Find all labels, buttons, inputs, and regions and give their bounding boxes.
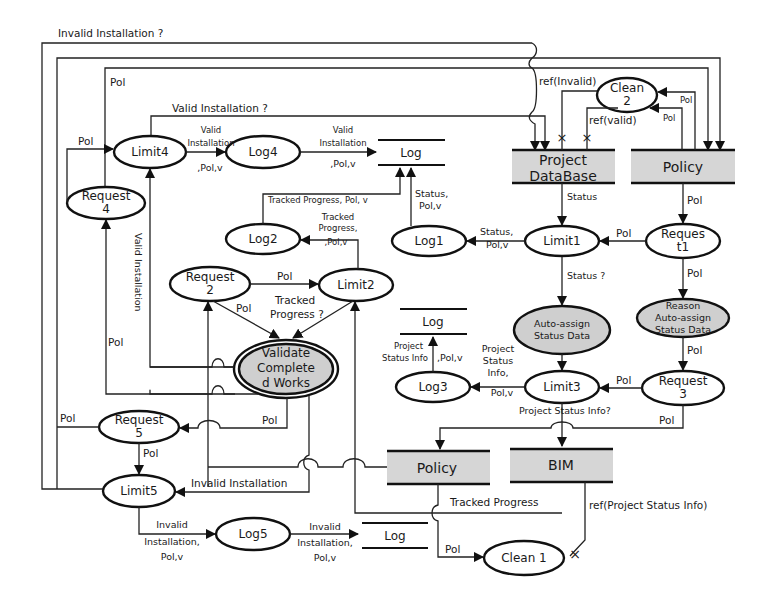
svg-text:Reason: Reason	[666, 300, 701, 311]
inhibitor-x-icon: ×	[569, 546, 581, 562]
svg-text:Request: Request	[115, 413, 164, 427]
store-policy-top[interactable]: Policy	[631, 150, 735, 183]
svg-text:Pol: Pol	[445, 543, 460, 555]
node-clean2[interactable]: Clean 2	[597, 78, 657, 112]
svg-text:Status: Status	[567, 191, 597, 202]
edge-label-pol: Pol	[78, 135, 93, 147]
store-log-mid[interactable]: Log	[400, 309, 467, 334]
svg-text:Limit2: Limit2	[337, 278, 374, 292]
svg-text:Installation,: Installation,	[297, 537, 353, 548]
svg-text:Pol: Pol	[60, 412, 75, 424]
svg-text:Pol,v: Pol,v	[314, 552, 337, 563]
svg-text:d Works: d Works	[262, 376, 310, 390]
svg-text:Status,: Status,	[480, 226, 513, 237]
edge-label-pol: Pol	[680, 95, 692, 105]
node-limit1[interactable]: Limit1	[525, 226, 599, 256]
node-limit2[interactable]: Limit2	[319, 269, 393, 301]
edge-label-valid-installation-q: Valid Installation ?	[172, 102, 268, 114]
edge-ref-project-status-info	[570, 482, 585, 556]
svg-text:Status ?: Status ?	[567, 270, 605, 281]
svg-text:Clean: Clean	[610, 81, 644, 95]
svg-text:Validate: Validate	[262, 346, 310, 360]
svg-text:Pol: Pol	[687, 194, 702, 206]
svg-text:2: 2	[623, 94, 631, 108]
svg-text:Auto-assign: Auto-assign	[534, 318, 590, 329]
inhibitor-x-icon: ×	[557, 130, 568, 145]
svg-text:Limit1: Limit1	[543, 234, 580, 248]
edge-label-pol: Pol	[108, 336, 123, 348]
svg-text:Log: Log	[384, 529, 405, 543]
svg-text:Pol: Pol	[262, 414, 277, 426]
node-clean1[interactable]: Clean 1	[484, 541, 564, 575]
svg-text:Request: Request	[659, 374, 708, 388]
svg-text:,Pol,v: ,Pol,v	[437, 352, 463, 363]
svg-text:Log4: Log4	[248, 145, 277, 159]
svg-text:Pol: Pol	[616, 227, 631, 239]
svg-text:Log5: Log5	[238, 527, 267, 541]
svg-text:Pol,v: Pol,v	[486, 239, 509, 250]
store-bim[interactable]: BIM	[510, 449, 613, 482]
svg-text:5: 5	[135, 426, 143, 440]
store-policy-bottom[interactable]: Policy	[387, 451, 490, 484]
svg-text:Project: Project	[482, 343, 515, 354]
edge-label-valid-installation-vertical: Valid Installation	[133, 233, 144, 312]
svg-text:Pol: Pol	[236, 302, 251, 314]
store-project-database[interactable]: Project DataBase	[512, 150, 615, 184]
svg-text:Complete: Complete	[257, 361, 315, 375]
svg-text:3: 3	[679, 387, 687, 401]
svg-text:Log1: Log1	[414, 234, 443, 248]
edge-validate-valid-installation	[150, 359, 234, 367]
svg-text:ref(Project Status Info): ref(Project Status Info)	[589, 499, 707, 511]
node-log2[interactable]: Log2	[226, 224, 300, 254]
svg-text:Pol: Pol	[687, 267, 702, 279]
node-auto-assign-status-data[interactable]: Auto-assign Status Data	[514, 306, 610, 354]
node-limit4[interactable]: Limit4	[114, 136, 186, 168]
svg-text:BIM: BIM	[548, 457, 574, 473]
node-validate-completed-works[interactable]: Validate Complete d Works	[234, 340, 338, 398]
edge-label-ref-valid: ref(valid)	[589, 114, 637, 126]
node-limit5[interactable]: Limit5	[103, 475, 175, 507]
petri-net-diagram: Pol Invalid Installation ? Valid Install…	[0, 0, 771, 610]
svg-text:Progress,: Progress,	[319, 223, 358, 233]
svg-text:Tracked Progress, Pol, v: Tracked Progress, Pol, v	[267, 195, 368, 205]
node-log3[interactable]: Log3	[396, 372, 470, 402]
node-request1[interactable]: Reques t1	[646, 224, 720, 258]
node-request5[interactable]: Request 5	[99, 411, 179, 443]
edge-pol-request4-vertical	[106, 220, 235, 394]
node-limit3[interactable]: Limit3	[525, 371, 599, 403]
edge-invalid-installation-to-db	[529, 43, 537, 150]
store-label: Project	[539, 152, 587, 168]
svg-text:Invalid: Invalid	[156, 519, 188, 530]
node-reason-auto-assign-status-data[interactable]: Reason Auto-assign Status Data	[637, 299, 729, 337]
edge-label-ref-invalid: ref(Invalid)	[539, 75, 596, 87]
svg-text:Tracked Progress: Tracked Progress	[449, 496, 538, 508]
svg-text:Project: Project	[394, 341, 424, 351]
edge-label-invalid-installation-q: Invalid Installation ?	[58, 27, 163, 39]
svg-text:Log2: Log2	[248, 232, 277, 246]
svg-text:Status Data: Status Data	[655, 324, 711, 335]
svg-text:Pol,v: Pol,v	[419, 200, 442, 211]
svg-text:Policy: Policy	[417, 460, 457, 476]
node-request2[interactable]: Request 2	[170, 267, 250, 301]
node-log4[interactable]: Log4	[226, 136, 300, 168]
svg-text:Clean 1: Clean 1	[501, 551, 547, 565]
svg-text:Reques: Reques	[661, 227, 705, 241]
svg-text:Progress ?: Progress ?	[270, 308, 324, 320]
store-log-top[interactable]: Log	[378, 140, 445, 165]
svg-text:Limit3: Limit3	[543, 380, 580, 394]
store-log-bottom[interactable]: Log	[362, 523, 428, 548]
svg-text:Info,: Info,	[488, 367, 509, 378]
svg-text:Pol: Pol	[687, 344, 702, 356]
svg-text:Pol: Pol	[659, 414, 674, 426]
node-request3[interactable]: Request 3	[642, 371, 724, 405]
store-label: Policy	[663, 159, 703, 175]
svg-text:Pol: Pol	[616, 374, 631, 386]
svg-text:4: 4	[102, 202, 110, 216]
inhibitor-x-icon: ×	[582, 130, 593, 145]
node-request4[interactable]: Request 4	[67, 187, 145, 219]
svg-text:Limit4: Limit4	[131, 145, 168, 159]
node-log5[interactable]: Log5	[216, 518, 290, 550]
svg-text:Request: Request	[186, 270, 235, 284]
svg-text:Status,: Status,	[415, 188, 448, 199]
node-log1[interactable]: Log1	[392, 226, 466, 256]
